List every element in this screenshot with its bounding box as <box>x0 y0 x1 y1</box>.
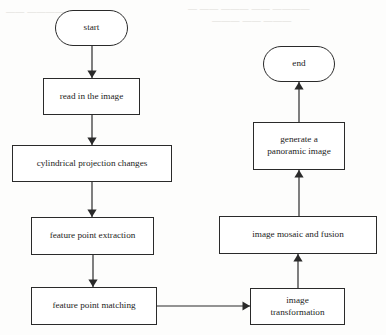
node-feature-point-extraction: feature point extraction <box>31 217 154 255</box>
node-feature-point-extraction-label: feature point extraction <box>47 230 139 242</box>
node-image-transformation-label: image transformation <box>267 295 327 319</box>
node-cylindrical-projection-changes: cylindrical projection changes <box>12 145 172 182</box>
node-end: end <box>263 46 335 82</box>
node-feature-point-matching: feature point matching <box>31 287 157 325</box>
node-image-mosaic-and-fusion-label: image mosaic and fusion <box>249 229 347 241</box>
node-end-label: end <box>289 58 308 70</box>
node-cylindrical-projection-changes-label: cylindrical projection changes <box>34 158 151 170</box>
node-feature-point-matching-label: feature point matching <box>49 300 138 312</box>
flowchart-diagram: —— ———— ——— — —— ——— —— ———— ——— —— ——— … <box>0 0 386 335</box>
node-generate-a-panoramic-image-label: generate a panoramic image <box>264 134 334 158</box>
node-generate-a-panoramic-image: generate a panoramic image <box>253 122 345 170</box>
node-read-in-the-image: read in the image <box>43 78 140 115</box>
node-read-in-the-image-label: read in the image <box>57 91 127 103</box>
node-start: start <box>55 10 128 46</box>
node-image-mosaic-and-fusion: image mosaic and fusion <box>219 216 377 254</box>
node-image-transformation: image transformation <box>250 288 345 325</box>
node-start-label: start <box>81 22 103 34</box>
